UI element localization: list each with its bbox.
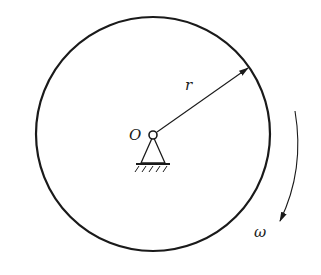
center-label: O xyxy=(129,126,141,144)
support-triangle xyxy=(141,136,165,163)
rotation-arrow xyxy=(280,111,298,221)
radius-label: r xyxy=(185,76,193,94)
ground-hatch xyxy=(135,166,167,172)
pivot-joint xyxy=(149,131,157,139)
omega-label: ω xyxy=(254,223,266,241)
radius-arrow xyxy=(157,68,248,132)
disk-diagram: O r ω xyxy=(0,0,321,275)
